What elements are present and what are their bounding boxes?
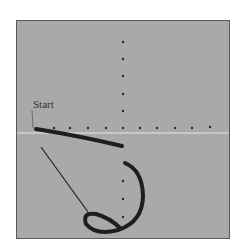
rope-segment-upper — [36, 129, 122, 146]
rope-thin-segment — [41, 147, 88, 212]
rope-trajectory-photo — [0, 0, 243, 248]
start-label: Start — [33, 98, 54, 110]
start-pointer — [32, 110, 33, 128]
grid-dots — [53, 41, 211, 218]
rope-segment-lower — [85, 163, 143, 232]
